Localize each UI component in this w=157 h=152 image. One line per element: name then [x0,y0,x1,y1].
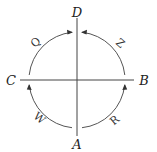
arrow-z-icon [81,30,87,35]
arrow-q-icon [67,30,73,35]
arrow-w-icon [27,84,32,90]
point-label-right: B [138,73,149,88]
arrow-r-icon [122,84,127,90]
circular-flow-diagram: D A C B Q Z W R [0,0,157,152]
point-label-left: C [6,73,16,88]
arc-label-w: W [31,110,49,128]
point-label-top: D [71,5,83,20]
arc-label-z: Z [113,36,127,51]
point-label-bottom: A [71,137,81,152]
